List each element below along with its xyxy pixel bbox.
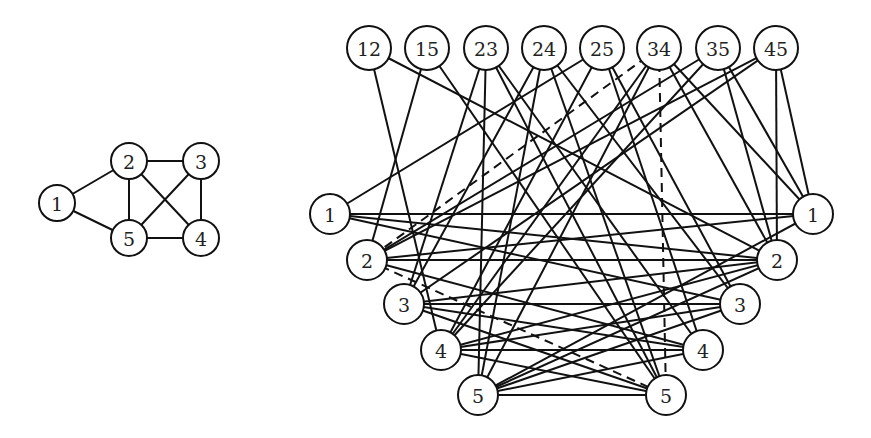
left-vertex-node-L5: 5 — [458, 375, 498, 415]
small-node-1: 1 — [39, 185, 75, 221]
figure-canvas: 12345 12152324253435451234512345 — [0, 0, 871, 438]
node-label: 4 — [195, 228, 207, 250]
node-label: 1 — [51, 193, 63, 215]
node-label: 1 — [324, 204, 336, 226]
node-label: 1 — [807, 204, 819, 226]
right-vertex-node-R5: 5 — [646, 375, 686, 415]
node-label: 24 — [532, 38, 556, 60]
edge-node-12: 12 — [347, 26, 391, 70]
large-edge-34-R1 — [659, 48, 813, 214]
node-label: 4 — [697, 340, 709, 362]
left-vertex-node-L1: 1 — [310, 194, 350, 234]
node-label: 25 — [590, 38, 614, 60]
node-label: 2 — [771, 250, 783, 272]
small-node-5: 5 — [111, 220, 147, 256]
edge-node-35: 35 — [696, 26, 740, 70]
large-layered-graph: 12152324253435451234512345 — [310, 26, 833, 415]
node-label: 5 — [123, 228, 135, 250]
large-graph-edges — [330, 48, 813, 395]
edge-node-23: 23 — [464, 26, 508, 70]
small-node-2: 2 — [111, 143, 147, 179]
right-vertex-node-R2: 2 — [757, 240, 797, 280]
node-label: 3 — [195, 151, 207, 173]
small-graph-g: 12345 — [39, 143, 219, 256]
small-node-3: 3 — [183, 143, 219, 179]
node-label: 15 — [415, 38, 439, 60]
node-label: 2 — [361, 250, 373, 272]
node-label: 23 — [474, 38, 498, 60]
edge-node-34: 34 — [637, 26, 681, 70]
left-vertex-node-L2: 2 — [347, 240, 387, 280]
node-label: 3 — [734, 294, 746, 316]
graph-diagram: 12345 12152324253435451234512345 — [0, 0, 871, 438]
right-vertex-node-R3: 3 — [720, 284, 760, 324]
left-vertex-node-L4: 4 — [421, 330, 461, 370]
edge-node-25: 25 — [580, 26, 624, 70]
left-vertex-node-L3: 3 — [384, 284, 424, 324]
large-edge-35-R2 — [718, 48, 777, 260]
large-edge-24-R5 — [544, 48, 666, 395]
node-label: 2 — [123, 151, 135, 173]
large-edge-45-R1 — [776, 48, 813, 214]
large-edge-45-R2 — [776, 48, 777, 260]
node-label: 12 — [357, 38, 381, 60]
node-label: 5 — [660, 385, 672, 407]
small-node-4: 4 — [183, 220, 219, 256]
right-vertex-node-R1: 1 — [793, 194, 833, 234]
right-vertex-node-R4: 4 — [683, 330, 723, 370]
node-label: 34 — [647, 38, 671, 60]
edge-node-24: 24 — [522, 26, 566, 70]
edge-node-45: 45 — [754, 26, 798, 70]
node-label: 5 — [472, 385, 484, 407]
large-edge-35-R1 — [718, 48, 813, 214]
large-edge-35-L2 — [367, 48, 718, 260]
node-label: 35 — [706, 38, 730, 60]
node-label: 4 — [435, 340, 447, 362]
node-label: 45 — [764, 38, 788, 60]
node-label: 3 — [398, 294, 410, 316]
edge-node-15: 15 — [405, 26, 449, 70]
